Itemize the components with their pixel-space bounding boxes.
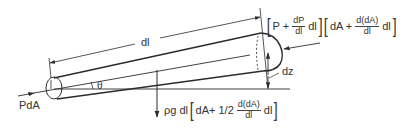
d-dA-dl-fraction: d(dA) dl [355,16,379,36]
dl-dimension-line-right [160,17,260,38]
height-label: dz [282,66,294,77]
inlet-force-arrow [18,93,34,96]
outlet-force-expression: [ P + dP dl dl ] [ dA + d(dA) dl dl ] [266,16,397,36]
inlet-force-label: PdA [19,100,40,111]
inlet-cross-section [46,77,62,99]
angle-label: θ [97,81,103,91]
weight-force-expression: ρg dl [ dA+ 1/2 d(dA) dl dl ] [163,100,279,120]
dl-left-extension [49,58,51,78]
dz-leader [269,73,279,78]
outlet-force-arrow [284,43,320,49]
d-dA-dl-fraction-weight: d(dA) dl [237,100,261,120]
element-bottom-edge [57,71,263,99]
length-label: dl [141,37,150,48]
dl-dimension-line-left [50,44,135,63]
dP-dl-fraction: dP dl [292,16,305,36]
